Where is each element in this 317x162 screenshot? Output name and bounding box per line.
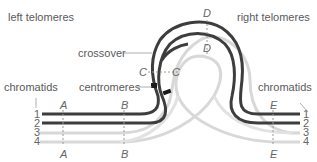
locus-b-bottom: B bbox=[121, 148, 128, 160]
locus-e-top: E bbox=[270, 99, 278, 111]
locus-b-top: B bbox=[121, 99, 128, 111]
chromatids-left-label: chromatids bbox=[4, 81, 58, 93]
chromatids-right-label: chromatids bbox=[258, 81, 312, 93]
locus-d-top: D bbox=[203, 7, 211, 19]
left-number-4: 4 bbox=[34, 135, 40, 147]
locus-e-bottom: E bbox=[270, 148, 278, 160]
centromeres-label: centromeres bbox=[79, 81, 141, 93]
locus-c-left: C bbox=[139, 66, 147, 78]
left-telomeres-label: left telomeres bbox=[8, 11, 75, 23]
dark-chromatids bbox=[42, 22, 300, 123]
crossover-label: crossover bbox=[78, 47, 126, 59]
locus-a-top: A bbox=[59, 99, 67, 111]
right-number-4: 4 bbox=[303, 135, 309, 147]
chromatid-diagram: left telomeres right telomeres crossover… bbox=[0, 0, 317, 162]
locus-d-inner: D bbox=[203, 42, 211, 54]
right-telomeres-label: right telomeres bbox=[237, 11, 310, 23]
locus-c-right: C bbox=[172, 66, 180, 78]
locus-a-bottom: A bbox=[59, 148, 67, 160]
